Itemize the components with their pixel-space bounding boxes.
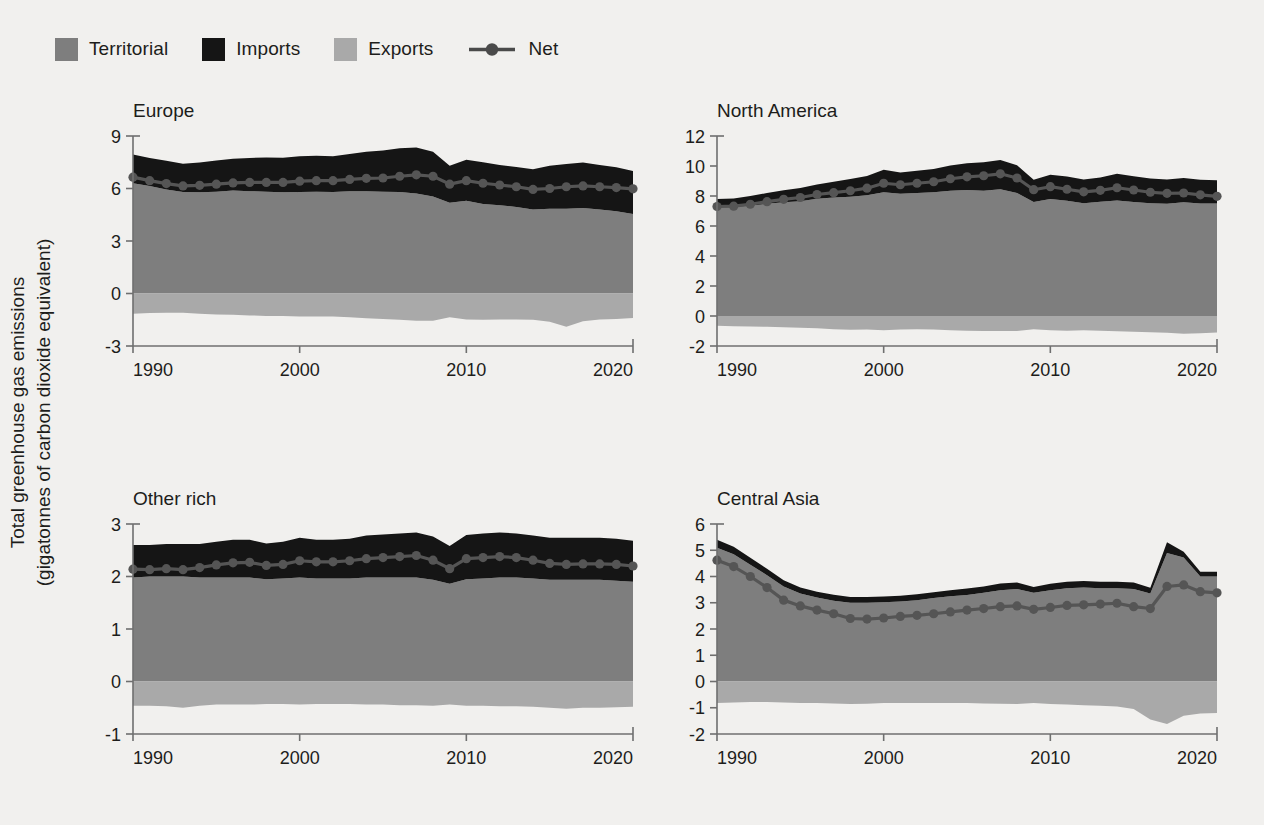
net-point — [445, 180, 454, 189]
net-point — [1029, 605, 1038, 614]
net-point — [495, 552, 504, 561]
net-point — [312, 557, 321, 566]
net-point — [445, 564, 454, 573]
area-exports — [133, 294, 633, 327]
net-point — [1196, 587, 1205, 596]
net-point — [478, 179, 487, 188]
y-tick-label: 3 — [111, 516, 121, 535]
net-point — [779, 596, 788, 605]
y-axis-title-line1: Total greenhouse gas emissions — [5, 239, 31, 587]
y-tick-label: -3 — [105, 337, 121, 357]
area-exports — [133, 682, 633, 709]
net-point — [729, 202, 738, 211]
panel-north-america: North America -2024681012199020002010202… — [717, 100, 1231, 390]
net-point — [145, 176, 154, 185]
net-point — [1079, 600, 1088, 609]
net-point — [1096, 599, 1105, 608]
net-point — [328, 176, 337, 185]
net-point — [312, 176, 321, 185]
net-point — [1179, 580, 1188, 589]
area-exports — [717, 682, 1217, 725]
net-point — [962, 606, 971, 615]
net-point — [278, 560, 287, 569]
legend-label-exports: Exports — [368, 38, 433, 60]
net-point — [245, 178, 254, 187]
panel-other-rich: Other rich -101231990200020102020 — [133, 488, 647, 778]
legend-item-territorial[interactable]: Territorial — [55, 38, 168, 61]
net-point — [1062, 185, 1071, 194]
net-point — [412, 170, 421, 179]
net-point — [896, 180, 905, 189]
net-point — [495, 180, 504, 189]
net-point — [345, 556, 354, 565]
net-point — [1162, 582, 1171, 591]
x-tick-label: 2000 — [280, 360, 320, 380]
legend-item-imports[interactable]: Imports — [202, 38, 300, 61]
x-tick-label: 2000 — [280, 748, 320, 768]
chart-svg-europe: -303691990200020102020 — [79, 128, 647, 390]
plot-area-north-america: -20246810121990200020102020 — [663, 128, 1231, 390]
y-axis-title-line2: (gigatonnes of carbon dioxide equivalent… — [31, 239, 57, 587]
net-point — [1146, 188, 1155, 197]
plot-area-europe: -303691990200020102020 — [79, 128, 647, 390]
net-point — [929, 609, 938, 618]
x-tick-label: 1990 — [717, 748, 757, 768]
net-point — [195, 563, 204, 572]
net-point — [846, 186, 855, 195]
net-point — [478, 553, 487, 562]
net-point — [796, 193, 805, 202]
legend-item-exports[interactable]: Exports — [334, 38, 433, 61]
x-tick-label: 2010 — [1030, 748, 1070, 768]
net-point — [912, 179, 921, 188]
panel-title-europe: Europe — [133, 100, 647, 122]
net-point — [628, 184, 637, 193]
net-point — [295, 556, 304, 565]
net-point — [195, 181, 204, 190]
y-tick-label: 8 — [695, 187, 705, 207]
net-point — [862, 184, 871, 193]
net-point — [295, 177, 304, 186]
net-point — [1096, 186, 1105, 195]
net-point — [746, 572, 755, 581]
net-point — [212, 560, 221, 569]
chart-svg-other-rich: -101231990200020102020 — [79, 516, 647, 778]
chart-legend: Territorial Imports Exports Net — [55, 34, 558, 64]
net-point — [528, 185, 537, 194]
net-point — [1079, 187, 1088, 196]
area-exports — [717, 316, 1217, 334]
y-tick-label: 3 — [111, 232, 121, 252]
net-point — [228, 558, 237, 567]
net-point — [328, 557, 337, 566]
net-point — [1112, 183, 1121, 192]
net-point — [1129, 185, 1138, 194]
y-tick-label: 1 — [695, 646, 705, 666]
y-tick-label: 6 — [111, 179, 121, 199]
net-point — [896, 612, 905, 621]
net-point — [462, 554, 471, 563]
net-point — [362, 174, 371, 183]
net-point — [979, 604, 988, 613]
net-point — [1146, 604, 1155, 613]
net-point — [912, 611, 921, 620]
y-tick-label: 2 — [111, 567, 121, 587]
y-tick-label: 6 — [695, 516, 705, 535]
y-tick-label: 6 — [695, 217, 705, 237]
x-tick-label: 2020 — [593, 360, 633, 380]
net-point — [428, 172, 437, 181]
legend-item-net[interactable]: Net — [467, 38, 558, 61]
net-point — [262, 178, 271, 187]
chart-svg-north-america: -20246810121990200020102020 — [663, 128, 1231, 390]
y-tick-label: 0 — [695, 307, 705, 327]
net-point — [528, 556, 537, 565]
x-tick-label: 2020 — [1177, 748, 1217, 768]
net-point — [145, 565, 154, 574]
net-point — [812, 190, 821, 199]
net-point — [746, 200, 755, 209]
chart-svg-central-asia: -2-101234561990200020102020 — [663, 516, 1231, 778]
y-tick-label: -2 — [689, 725, 705, 745]
y-tick-label: 2 — [695, 620, 705, 640]
net-point — [929, 177, 938, 186]
net-point — [578, 559, 587, 568]
net-point — [562, 560, 571, 569]
y-tick-label: -1 — [105, 725, 121, 745]
